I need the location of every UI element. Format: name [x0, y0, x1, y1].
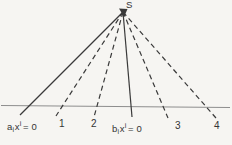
ray-3-label: 3 — [175, 120, 181, 131]
ray-4-label: 4 — [214, 120, 220, 131]
ray-1-label: 1 — [59, 118, 65, 129]
ray-1-dashed — [56, 12, 123, 116]
horizontal-baseline — [1, 106, 230, 108]
line-b-solid — [123, 12, 132, 117]
equation-b-label: bixi= 0 — [112, 120, 142, 137]
line-a-solid — [20, 12, 123, 115]
pencil-of-lines-figure: S aixi= 0 1 2 bixi= 0 3 4 — [0, 0, 232, 145]
equation-b-superscript: i — [125, 122, 127, 129]
equation-a-label: aixi= 0 — [7, 118, 37, 135]
ray-4-dashed — [123, 12, 216, 118]
ray-3-dashed — [123, 12, 168, 118]
equation-a-rhs: = 0 — [23, 121, 37, 132]
equation-b-rhs: = 0 — [128, 123, 142, 134]
equation-a-superscript: i — [20, 120, 22, 127]
apex-point-label: S — [126, 0, 133, 10]
ray-2-dashed — [94, 12, 123, 117]
ray-2-label: 2 — [91, 118, 97, 129]
